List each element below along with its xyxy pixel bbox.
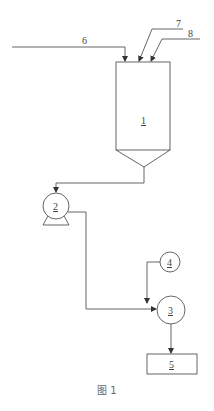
tank-1-label: 1 — [141, 115, 146, 126]
pump-2-label: 2 — [53, 201, 58, 212]
stream-8: 8 — [151, 28, 200, 61]
stream-6-label: 6 — [82, 35, 87, 46]
tank-to-pump-line — [56, 167, 144, 192]
unit-3: 3 — [157, 296, 185, 324]
unit-4-to-unit-3-line — [147, 262, 160, 303]
unit-4: 4 — [160, 252, 180, 272]
stream-7-label: 7 — [176, 18, 181, 29]
figure-caption: 图 1 — [97, 385, 117, 396]
box-5: 5 — [147, 354, 197, 374]
pump-2: 2 — [43, 193, 69, 225]
unit-4-label: 4 — [167, 257, 172, 268]
tank-1: 1 — [116, 62, 170, 167]
unit-3-label: 3 — [168, 305, 173, 316]
stream-7: 7 — [139, 18, 183, 61]
stream-6: 6 — [12, 35, 125, 61]
pump-to-unit-3-line — [68, 212, 156, 309]
process-diagram: 6 7 8 1 2 4 3 5 图 1 — [0, 0, 214, 411]
stream-8-label: 8 — [188, 28, 193, 39]
box-5-label: 5 — [169, 359, 174, 370]
